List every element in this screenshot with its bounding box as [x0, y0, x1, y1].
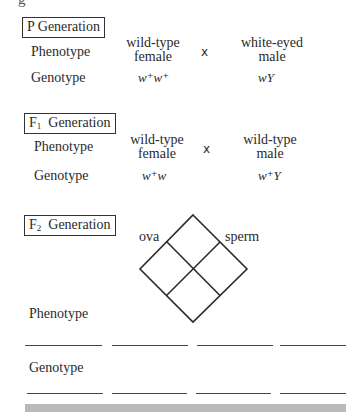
genotype-blank-4[interactable]: [280, 393, 346, 394]
f2-phenotype-label: Phenotype: [29, 306, 88, 322]
punnett-square-diamond: [0, 0, 361, 418]
phenotype-blank-2[interactable]: [112, 345, 188, 346]
genotype-blank-3[interactable]: [196, 393, 271, 394]
phenotype-blank-3[interactable]: [197, 345, 273, 346]
phenotype-blank-1[interactable]: [25, 345, 102, 346]
genotype-blank-2[interactable]: [112, 393, 187, 394]
genotype-blank-1[interactable]: [27, 393, 103, 394]
f2-genotype-label: Genotype: [29, 360, 83, 376]
phenotype-blank-4[interactable]: [280, 345, 346, 346]
gray-divider-bar: [25, 404, 346, 412]
